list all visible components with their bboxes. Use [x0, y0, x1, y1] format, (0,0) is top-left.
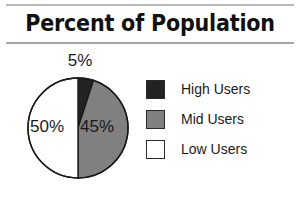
top-divider-rule [6, 4, 294, 6]
legend-item-mid-users: Mid Users [146, 104, 296, 134]
legend-item-low-users: Low Users [146, 134, 296, 164]
legend-label-low-users: Low Users [181, 141, 247, 157]
page-title: Percent of Population [0, 9, 300, 38]
low-users-swatch-icon [146, 140, 165, 159]
legend-label-high-users: High Users [181, 81, 250, 97]
high-users-swatch-icon [146, 80, 165, 99]
slice-label-high-users: 5% [0, 52, 160, 69]
slice-label-mid-users: 45% [80, 118, 114, 135]
chart-figure: Percent of Population 5% 45% 50% High Us… [0, 0, 300, 200]
chart-legend: High Users Mid Users Low Users [146, 74, 296, 164]
slice-label-low-users: 50% [30, 118, 64, 135]
title-divider-rule [6, 42, 294, 44]
legend-item-high-users: High Users [146, 74, 296, 104]
mid-users-swatch-icon [146, 110, 165, 129]
plot-area: 5% 45% 50% High Users Mid Users Low User… [0, 46, 300, 200]
legend-label-mid-users: Mid Users [181, 111, 244, 127]
